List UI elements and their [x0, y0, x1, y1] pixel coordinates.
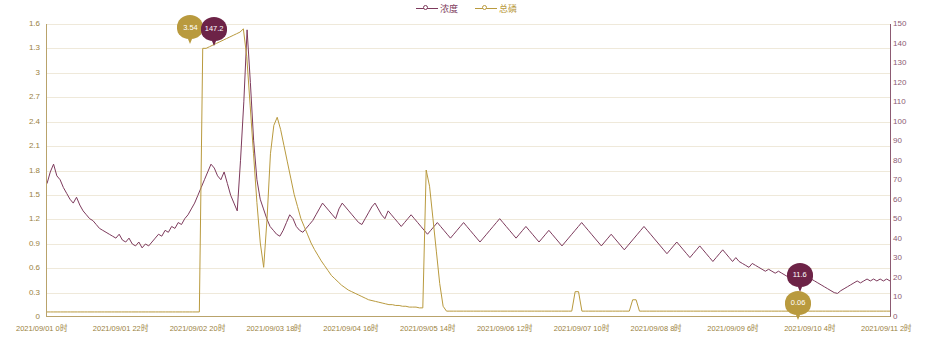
annotation-label: 0.06 — [785, 291, 811, 315]
x-axis-tick: 2021/09/05 14时 — [400, 322, 455, 333]
y-axis-left-tick: 3 — [0, 69, 40, 77]
annotation-pointer-icon — [188, 39, 192, 44]
y-axis-right-tick: 10 — [893, 293, 933, 301]
y-axis-right-tick: 50 — [893, 215, 933, 223]
x-axis-tick: 2021/09/11 2时 — [861, 322, 911, 333]
series-lines — [47, 24, 890, 316]
y-axis-left-tick: 0.3 — [0, 289, 40, 297]
y-axis-left-tick: 2.4 — [0, 118, 40, 126]
y-axis-right-tick: 70 — [893, 176, 933, 184]
y-axis-right-tick: 130 — [893, 59, 933, 67]
legend-label-total-phosphorus: 总磷 — [499, 4, 517, 14]
x-axis-tick: 2021/09/01 22时 — [93, 322, 148, 333]
x-axis-tick: 2021/09/01 0时 — [16, 322, 67, 333]
y-axis-left-tick: 1.5 — [0, 191, 40, 199]
y-axis-right-tick: 150 — [893, 20, 933, 28]
chart-legend: 浓度 总磷 — [0, 2, 933, 15]
y-axis-right-tick: 140 — [893, 40, 933, 48]
x-axis-tick: 2021/09/03 18时 — [246, 322, 301, 333]
y-axis-right-tick: 80 — [893, 157, 933, 165]
chart-container: 浓度 总磷 00.30.60.91.21.51.82.12.42.731.31.… — [0, 0, 933, 349]
series-line — [47, 29, 890, 312]
annotation-label: 3.54 — [177, 15, 203, 39]
annotation-label: 11.6 — [787, 263, 813, 287]
x-axis-tick: 2021/09/09 6时 — [707, 322, 758, 333]
y-axis-left-tick: 1.3 — [0, 44, 40, 52]
annotation-balloon[interactable]: 0.06 — [785, 291, 811, 317]
legend-item-total-phosphorus[interactable]: 总磷 — [475, 2, 517, 15]
x-axis-tick: 2021/09/06 12时 — [477, 322, 532, 333]
annotation-pointer-icon — [212, 41, 216, 46]
x-axis-tick: 2021/09/07 10时 — [554, 322, 609, 333]
y-axis-left-tick: 0.9 — [0, 240, 40, 248]
legend-item-concentration[interactable]: 浓度 — [416, 2, 458, 15]
y-axis-right-tick: 90 — [893, 137, 933, 145]
y-axis-right-tick: 40 — [893, 235, 933, 243]
series-line — [47, 30, 890, 294]
y-axis-right-tick: 100 — [893, 118, 933, 126]
x-axis-tick: 2021/09/02 20时 — [170, 322, 225, 333]
legend-marker-concentration-icon — [416, 4, 438, 13]
y-axis-left-tick: 1.8 — [0, 167, 40, 175]
y-axis-right-tick: 120 — [893, 79, 933, 87]
plot-area — [46, 24, 891, 317]
annotation-pointer-icon — [796, 315, 800, 320]
y-axis-right-tick: 30 — [893, 254, 933, 262]
y-axis-right-tick: 60 — [893, 196, 933, 204]
y-axis-left-tick: 2.7 — [0, 93, 40, 101]
y-axis-left-tick: 0 — [0, 313, 40, 321]
annotation-label: 147.2 — [201, 17, 227, 41]
y-axis-right-tick: 0 — [893, 313, 933, 321]
y-axis-left-tick: 1.2 — [0, 215, 40, 223]
y-axis-right-tick: 20 — [893, 274, 933, 282]
legend-label-concentration: 浓度 — [440, 4, 458, 14]
annotation-balloon[interactable]: 3.54 — [177, 15, 203, 41]
x-axis-tick: 2021/09/08 8时 — [631, 322, 682, 333]
y-axis-left-tick: 0.6 — [0, 264, 40, 272]
y-axis-left-tick: 1.6 — [0, 20, 40, 28]
annotation-balloon[interactable]: 147.2 — [201, 17, 227, 43]
x-axis-tick: 2021/09/10 4时 — [784, 322, 835, 333]
x-axis-tick: 2021/09/04 16时 — [323, 322, 378, 333]
y-axis-left-tick: 2.1 — [0, 142, 40, 150]
annotation-balloon[interactable]: 11.6 — [787, 263, 813, 289]
legend-marker-total-phosphorus-icon — [475, 4, 497, 13]
y-axis-right-tick: 110 — [893, 98, 933, 106]
